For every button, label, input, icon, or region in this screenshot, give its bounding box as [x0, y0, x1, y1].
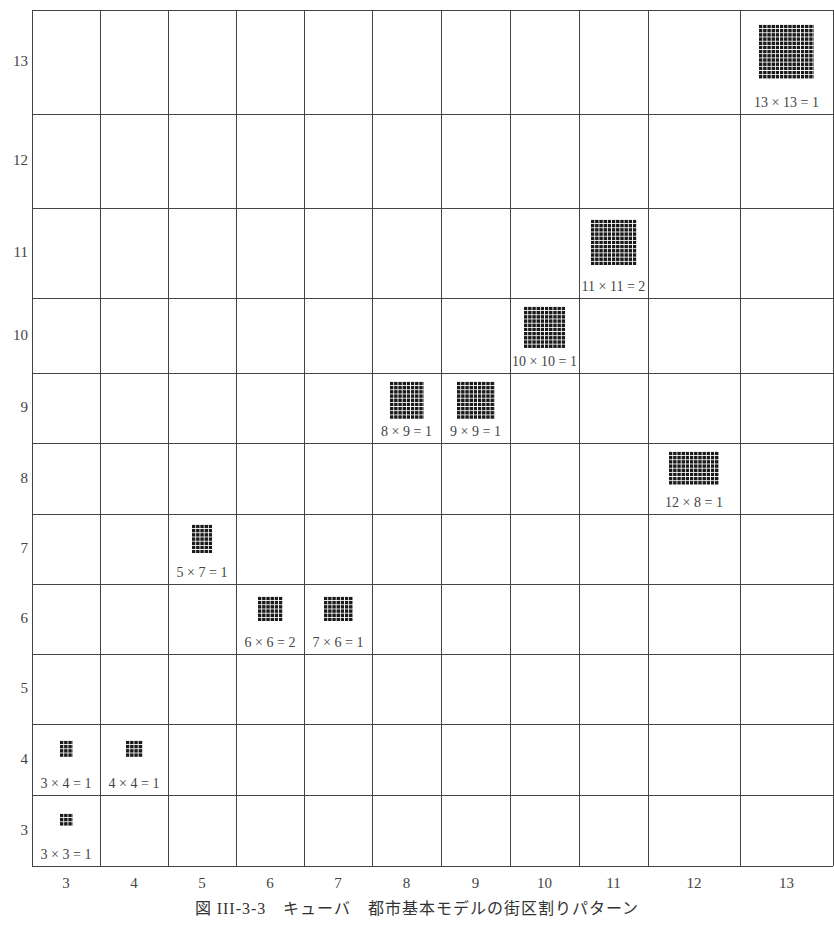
y-axis-label: 13 [0, 53, 28, 70]
x-axis-label: 7 [308, 875, 368, 892]
x-axis-label: 8 [377, 875, 437, 892]
grid-line-horizontal [32, 114, 833, 115]
grid-line-vertical [168, 10, 169, 866]
block-label: 13 × 13 = 1 [742, 95, 832, 111]
grid-line-horizontal [32, 584, 833, 585]
block-pattern-swatch [192, 524, 213, 553]
block-label: 7 × 6 = 1 [293, 635, 383, 651]
y-axis-label: 4 [0, 751, 28, 768]
block-label: 9 × 9 = 1 [431, 424, 521, 440]
y-axis-label: 7 [0, 540, 28, 557]
y-axis-label: 3 [0, 822, 28, 839]
grid-line-horizontal [32, 724, 833, 725]
block-label: 3 × 3 = 1 [21, 847, 111, 863]
grid-line-horizontal [32, 866, 833, 867]
y-axis-label: 5 [0, 680, 28, 697]
block-label: 12 × 8 = 1 [649, 495, 739, 511]
grid-line-vertical [32, 10, 33, 866]
grid-line-horizontal [32, 795, 833, 796]
block-label: 10 × 10 = 1 [500, 354, 590, 370]
block-pattern-swatch [390, 381, 424, 419]
block-pattern-grid: 1312111098765433456789101112133 × 3 = 13… [0, 0, 834, 925]
x-axis-label: 9 [446, 875, 506, 892]
grid-line-vertical [100, 10, 101, 866]
y-axis-label: 6 [0, 610, 28, 627]
block-label: 5 × 7 = 1 [157, 565, 247, 581]
x-axis-label: 10 [515, 875, 575, 892]
x-axis-label: 12 [664, 875, 724, 892]
block-pattern-swatch [258, 596, 283, 621]
block-pattern-swatch [324, 596, 353, 621]
grid-line-vertical [304, 10, 305, 866]
grid-line-horizontal [32, 208, 833, 209]
x-axis-label: 5 [172, 875, 232, 892]
y-axis-label: 11 [0, 244, 28, 261]
x-axis-label: 13 [757, 875, 817, 892]
grid-line-vertical [740, 10, 741, 866]
grid-line-vertical [579, 10, 580, 866]
x-axis-label: 11 [584, 875, 644, 892]
grid-line-vertical [236, 10, 237, 866]
x-axis-label: 4 [104, 875, 164, 892]
block-pattern-swatch [126, 740, 143, 757]
block-pattern-swatch [591, 219, 637, 265]
grid-line-horizontal [32, 654, 833, 655]
block-pattern-swatch [669, 451, 719, 485]
block-label: 4 × 4 = 1 [89, 776, 179, 792]
figure-caption: 図 III-3-3 キューバ 都市基本モデルの街区割りパターン [0, 895, 834, 919]
grid-line-horizontal [32, 443, 833, 444]
grid-line-horizontal [32, 514, 833, 515]
x-axis-label: 3 [36, 875, 96, 892]
grid-line-horizontal [32, 373, 833, 374]
block-label: 11 × 11 = 2 [569, 279, 659, 295]
grid-line-vertical [648, 10, 649, 866]
y-axis-label: 10 [0, 327, 28, 344]
block-pattern-swatch [524, 306, 566, 348]
block-pattern-swatch [60, 740, 73, 757]
y-axis-label: 8 [0, 470, 28, 487]
grid-line-horizontal [32, 10, 833, 11]
block-pattern-swatch [759, 24, 814, 79]
block-pattern-swatch [60, 813, 73, 826]
x-axis-label: 6 [240, 875, 300, 892]
block-pattern-swatch [457, 381, 495, 419]
y-axis-label: 12 [0, 152, 28, 169]
grid-line-horizontal [32, 298, 833, 299]
y-axis-label: 9 [0, 399, 28, 416]
